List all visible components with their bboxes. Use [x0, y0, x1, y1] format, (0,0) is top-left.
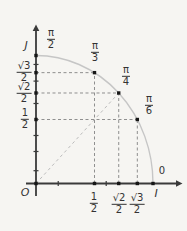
- x-axis-point: [136, 182, 139, 185]
- pi-over-6-denominator: 6: [146, 106, 152, 117]
- y-one-half-numerator: 1: [21, 108, 29, 120]
- y-axis-point: [34, 71, 37, 74]
- y-sqrt2-numerator: √2: [17, 82, 32, 94]
- y-axis-arrow: [33, 25, 40, 32]
- x-sqrt2-denominator: 2: [116, 205, 122, 216]
- y-axis-point: [34, 91, 37, 94]
- y-value-one-half-label: 1 2: [21, 108, 29, 130]
- arc-point-pi-over-6: [136, 118, 139, 121]
- pi-over-4-denominator: 4: [123, 77, 129, 88]
- x-value-sqrt2-over-2-label: √2 2: [112, 193, 127, 215]
- x-axis-point: [93, 182, 96, 185]
- y-axis-point: [34, 118, 37, 121]
- x-one-half-denominator: 2: [91, 204, 97, 215]
- pi-over-2-numerator: π: [47, 28, 55, 40]
- diagonal-dashed-line: [36, 93, 119, 184]
- y-value-sqrt2-over-2-label: √2 2: [17, 82, 32, 104]
- pi-over-3-numerator: π: [91, 41, 99, 53]
- x-one-half-numerator: 1: [90, 192, 98, 204]
- pi-over-3-denominator: 3: [92, 53, 98, 64]
- y-sqrt2-denominator: 2: [21, 94, 27, 105]
- unit-circle-diagram: π 2 J √3 2 √2 2 1 2 O π 3 π 4 π 6 0 I 1 …: [0, 0, 187, 231]
- pi-over-2-denominator: 2: [48, 40, 54, 51]
- pi-over-4-numerator: π: [122, 65, 130, 77]
- y-sqrt3-numerator: √3: [17, 61, 32, 73]
- x-sqrt3-numerator: √3: [130, 193, 145, 205]
- x-axis-arrow: [176, 180, 183, 187]
- origin-label: O: [21, 186, 30, 199]
- point-J-label: J: [24, 39, 27, 52]
- x-value-one-half-label: 1 2: [90, 192, 98, 214]
- x-sqrt2-numerator: √2: [112, 193, 127, 205]
- point-I: [151, 182, 154, 185]
- x-sqrt3-denominator: 2: [134, 205, 140, 216]
- angle-zero-label: 0: [159, 165, 165, 176]
- point-I-label: I: [154, 187, 157, 200]
- pi-over-6-numerator: π: [145, 94, 153, 106]
- angle-pi-over-4-label: π 4: [122, 65, 130, 87]
- angle-pi-over-3-label: π 3: [91, 41, 99, 63]
- arc-point-pi-over-3: [93, 71, 96, 74]
- point-J: [34, 54, 37, 57]
- angle-pi-over-2-label: π 2: [47, 28, 55, 50]
- arc-point-pi-over-4: [117, 91, 120, 94]
- x-value-sqrt3-over-2-label: √3 2: [130, 193, 145, 215]
- x-axis-point: [117, 182, 120, 185]
- angle-pi-over-6-label: π 6: [145, 94, 153, 116]
- origin-point: [34, 182, 37, 185]
- y-one-half-denominator: 2: [22, 120, 28, 131]
